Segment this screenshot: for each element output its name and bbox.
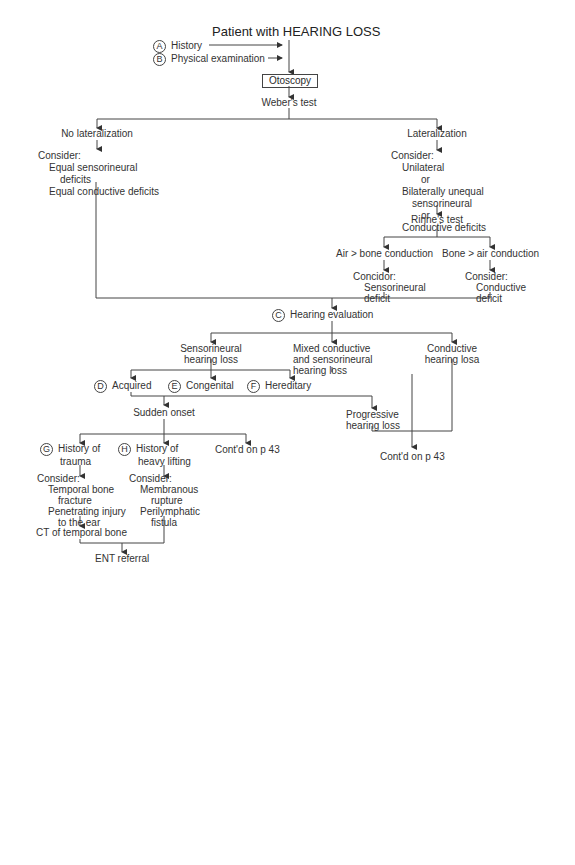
badge-d-icon: D xyxy=(94,380,107,393)
physical-exam-input: BPhysical examination xyxy=(153,53,265,66)
conductive-hearing-loss: Conductive hearing losa xyxy=(417,343,487,365)
no-lateralization: No lateralization xyxy=(47,128,147,140)
badge-e-icon: E xyxy=(168,380,181,393)
trauma-consider: Consider: Temporal bone fracture Penetra… xyxy=(37,473,126,528)
lateralization: Lateralization xyxy=(387,128,487,140)
root-title: Patient with HEARING LOSS xyxy=(212,26,380,38)
hearing-evaluation: CHearing evaluation xyxy=(272,309,373,322)
rinne-test: Rinne's test xyxy=(397,214,477,226)
sudden-onset: Sudden onset xyxy=(124,407,204,419)
ent-referral: ENT referral xyxy=(95,553,149,565)
cause-hereditary: FHereditary xyxy=(247,380,311,393)
air-bone-conduction: Air > bone conduction xyxy=(336,248,433,260)
cause-congenital: ECongenital xyxy=(168,380,234,393)
history-of-heavy-lifting: HHistory of heavy lifting xyxy=(118,443,191,467)
badge-f-icon: F xyxy=(247,380,260,393)
progressive-hearing-loss: Progressive hearing loss xyxy=(346,409,400,431)
badge-a-icon: A xyxy=(153,40,166,53)
otoscopy-box: Otoscopy xyxy=(262,74,318,88)
history-input: AHistory xyxy=(153,40,202,53)
badge-b-icon: B xyxy=(153,53,166,66)
sensorineural-hearing-loss: Sensorineural hearing loss xyxy=(171,343,251,365)
bone-air-conduction: Bone > air conduction xyxy=(442,248,539,260)
badge-h-icon: H xyxy=(118,443,131,456)
air-bone-consider: Concidor: Sensorineural deficit xyxy=(353,271,426,304)
lifting-consider: Consider: Membranous rupture Perilymphat… xyxy=(129,473,200,528)
continued-page-43-left: Cont'd on p 43 xyxy=(215,444,280,456)
no-lateralization-consider: Consider: Equal sensorineural deficits E… xyxy=(38,150,159,198)
weber-test: Weber's test xyxy=(239,97,339,109)
mixed-hearing-loss: Mixed conductive and sensorineural heari… xyxy=(293,343,373,376)
badge-g-icon: G xyxy=(40,443,53,456)
ct-temporal-bone: CT of temporal bone xyxy=(36,527,127,539)
bone-air-consider: Consider: Conductive deficit xyxy=(465,271,526,304)
continued-page-43-right: Cont'd on p 43 xyxy=(380,451,445,463)
cause-acquired: DAcquired xyxy=(94,380,151,393)
badge-c-icon: C xyxy=(272,309,285,322)
history-of-trauma: GHistory of trauma xyxy=(40,443,100,467)
